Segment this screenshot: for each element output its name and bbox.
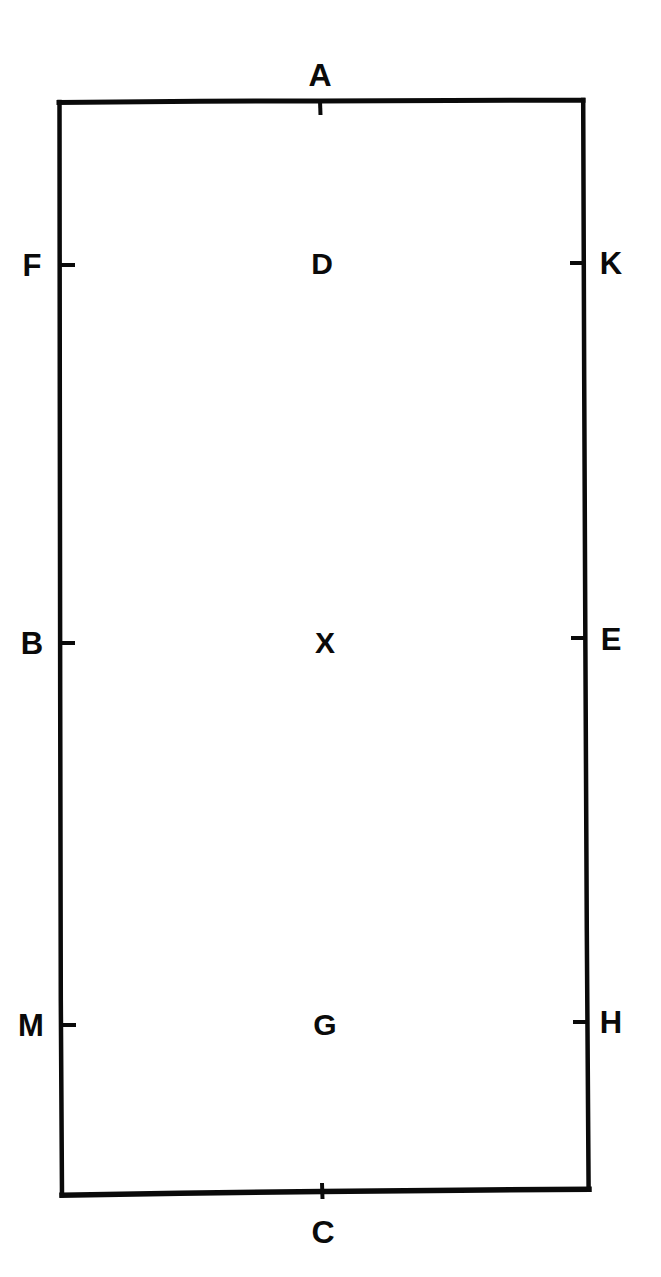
label-x-interior-center: X [315,628,335,658]
label-f-left-upper: F [23,250,42,281]
label-h-right-lower: H [600,1007,622,1038]
rectangle-edge-bottom [62,1189,589,1195]
label-d-interior-upper: D [311,249,333,279]
label-k-right-upper: K [600,248,622,279]
diagram-canvas: A C F B M K E H D X G [0,0,661,1277]
label-g-interior-lower: G [313,1010,336,1040]
label-b-left-middle: B [21,628,43,659]
label-a-top: A [308,59,331,91]
label-m-left-lower: M [18,1010,44,1041]
tick-mark-top-a [320,101,321,115]
label-c-bottom: C [311,1216,334,1248]
tick-mark-bottom-c [322,1183,323,1199]
label-e-right-middle: E [601,624,622,655]
